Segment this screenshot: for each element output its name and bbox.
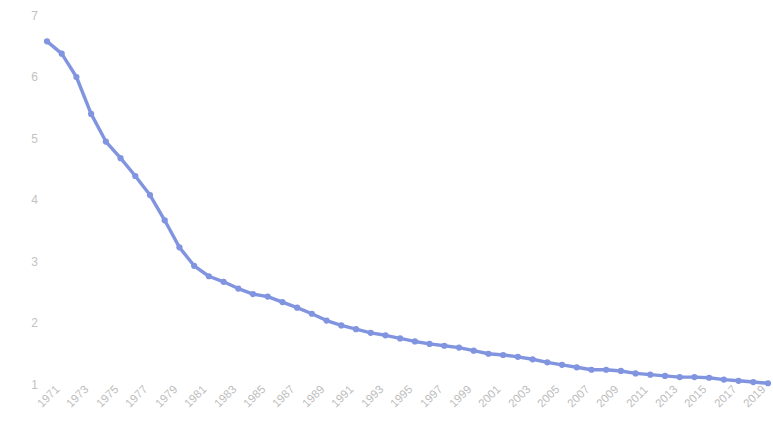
series-line	[47, 41, 768, 383]
data-point	[412, 338, 418, 344]
data-point	[73, 74, 79, 80]
data-point	[176, 244, 182, 250]
data-point	[529, 356, 535, 362]
data-point	[632, 370, 638, 376]
data-point	[471, 348, 477, 354]
data-point	[162, 217, 168, 223]
data-point	[441, 343, 447, 349]
data-point	[691, 374, 697, 380]
data-point	[515, 354, 521, 360]
data-point	[220, 279, 226, 285]
data-point	[765, 380, 771, 386]
data-point	[750, 379, 756, 385]
series-markers	[44, 38, 771, 386]
data-point	[147, 192, 153, 198]
data-point	[353, 326, 359, 332]
data-point	[544, 359, 550, 365]
data-point	[88, 111, 94, 117]
data-point	[235, 285, 241, 291]
plot-area	[0, 0, 773, 432]
line-chart: Purchasing power of one U.S. dollar 7654…	[0, 0, 773, 432]
data-point	[250, 291, 256, 297]
data-point	[191, 263, 197, 269]
data-point	[426, 341, 432, 347]
data-point	[132, 173, 138, 179]
data-point	[59, 51, 65, 57]
data-point	[265, 293, 271, 299]
data-point	[206, 273, 212, 279]
data-point	[500, 352, 506, 358]
data-point	[721, 376, 727, 382]
data-point	[368, 330, 374, 336]
data-point	[103, 138, 109, 144]
data-point	[647, 372, 653, 378]
data-point	[338, 322, 344, 328]
data-point	[294, 305, 300, 311]
data-point	[735, 378, 741, 384]
data-point	[382, 332, 388, 338]
data-point	[323, 317, 329, 323]
data-point	[485, 351, 491, 357]
data-point	[559, 362, 565, 368]
data-point	[677, 374, 683, 380]
data-point	[397, 335, 403, 341]
data-point	[574, 364, 580, 370]
data-series-purchasing-power	[44, 38, 771, 386]
data-point	[588, 367, 594, 373]
data-point	[706, 375, 712, 381]
data-point	[117, 155, 123, 161]
data-point	[456, 345, 462, 351]
data-point	[618, 368, 624, 374]
data-point	[279, 299, 285, 305]
data-point	[309, 311, 315, 317]
data-point	[44, 38, 50, 44]
data-point	[603, 367, 609, 373]
data-point	[662, 373, 668, 379]
